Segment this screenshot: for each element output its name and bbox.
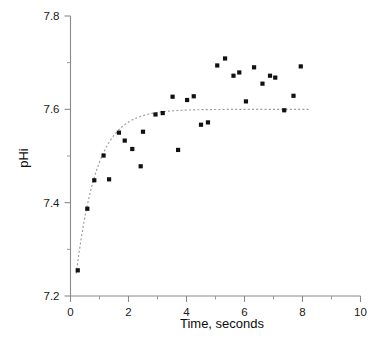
data-point-marker	[291, 94, 295, 98]
data-point-marker	[117, 131, 121, 135]
y-tick-label: 7.4	[44, 197, 61, 209]
y-tick-label: 7.6	[44, 103, 60, 115]
data-point-marker	[231, 74, 235, 78]
data-point-marker	[123, 139, 127, 143]
data-point-marker	[206, 120, 210, 124]
x-axis-title: Time, seconds	[180, 316, 265, 331]
scatter-plot: 7.27.47.67.8 0246810 Time, seconds pHi	[0, 0, 377, 345]
chart-figure: 7.27.47.67.8 0246810 Time, seconds pHi	[0, 0, 377, 345]
x-tick-label: 2	[125, 306, 131, 318]
data-point-marker	[130, 147, 134, 151]
x-tick-label: 8	[299, 306, 305, 318]
data-point-marker	[141, 130, 145, 134]
data-point-marker	[252, 65, 256, 69]
data-point-marker	[237, 70, 241, 74]
data-point-marker	[215, 63, 219, 67]
data-point-marker	[199, 123, 203, 127]
data-point-marker	[92, 178, 96, 182]
y-tick-label: 7.8	[44, 10, 60, 22]
data-point-marker	[273, 76, 277, 80]
data-point-marker	[268, 74, 272, 78]
data-point-marker	[299, 64, 303, 68]
data-point-marker	[170, 95, 174, 99]
data-point-marker	[223, 56, 227, 60]
data-point-marker	[101, 153, 105, 157]
data-point-marker	[139, 164, 143, 168]
x-tick-label: 0	[67, 306, 73, 318]
x-tick-label: 10	[354, 306, 367, 318]
data-point-marker	[76, 268, 80, 272]
data-point-marker	[185, 98, 189, 102]
data-point-marker	[107, 177, 111, 181]
data-point-marker	[161, 111, 165, 115]
data-point-marker	[260, 82, 264, 86]
y-tick-label: 7.2	[44, 290, 60, 302]
data-point-marker	[192, 94, 196, 98]
data-point-marker	[85, 207, 89, 211]
data-point-marker	[282, 108, 286, 112]
data-point-marker	[244, 99, 248, 103]
data-point-marker	[176, 148, 180, 152]
y-axis-title: pHi	[16, 148, 31, 168]
data-point-marker	[153, 112, 157, 116]
